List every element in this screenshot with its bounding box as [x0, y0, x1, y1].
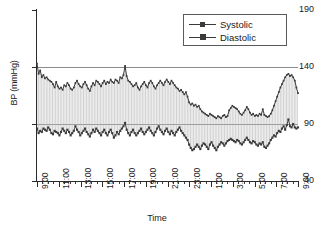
bp-chart: BP (mmHg) 4090140190 9:0011:0013:0015:00… — [0, 0, 314, 229]
legend-item-diastolic: Diastolic — [189, 31, 281, 44]
x-axis-title: Time — [0, 213, 314, 223]
legend-marker-diastolic-icon — [189, 32, 216, 43]
legend-label-diastolic: Diastolic — [220, 32, 256, 43]
legend: Systolic Diastolic — [183, 14, 287, 46]
legend-label-systolic: Systolic — [220, 19, 253, 30]
legend-item-systolic: Systolic — [189, 18, 281, 31]
legend-marker-systolic-icon — [189, 19, 216, 30]
